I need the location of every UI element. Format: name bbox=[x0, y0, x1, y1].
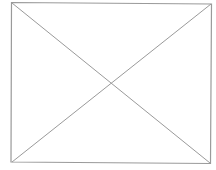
image-placeholder bbox=[0, 0, 216, 170]
image-placeholder-x-icon bbox=[0, 0, 216, 170]
